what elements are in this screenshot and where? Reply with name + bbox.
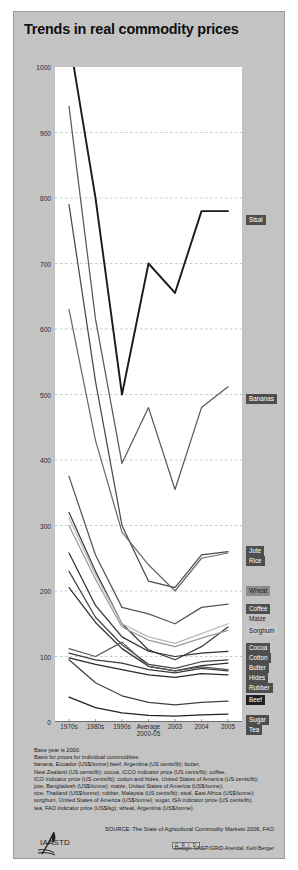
plot-canvas <box>55 67 242 722</box>
plot-area <box>55 67 242 722</box>
series-line-wheat <box>69 476 228 623</box>
note-line: jute, Bangladesh (US$/tonne); maize, Uni… <box>34 783 284 790</box>
note-line: tea, FAO indicator price (US$/kg); wheat… <box>34 805 284 812</box>
series-line-tea <box>69 697 228 716</box>
chart-legend: SisalBananasJuteRiceWheatCoffeeMaizeSorg… <box>246 67 298 727</box>
note-line: New Zealand (US cents/lb); cocoa, ICCO i… <box>34 769 284 776</box>
note-line: sorghum, United States of America (US$/t… <box>34 797 284 804</box>
x-axis-tick: 2005 <box>221 723 235 730</box>
x-axis-tick: 1980s <box>87 723 104 730</box>
legend-item-rice[interactable]: Rice <box>246 556 265 566</box>
page-title: Trends in real commodity prices <box>24 21 274 37</box>
x-axis-labels: 1970s1980s1990sAverage2000-0520032004200… <box>44 723 254 745</box>
y-axis-tick: 600 <box>25 326 51 333</box>
y-axis-tick: 800 <box>25 195 51 202</box>
legend-item-bananas[interactable]: Bananas <box>246 394 277 404</box>
x-axis-tick: Average2000-05 <box>137 723 161 737</box>
note-line: ICO indicator price (US cents/lb); cotto… <box>34 776 284 783</box>
poster-page: Trends in real commodity prices 01002003… <box>0 0 298 870</box>
design-credit: Design: UNEP/GRID-Arendal, Ketil Berger <box>174 845 274 851</box>
series-line-sorghum <box>69 526 228 647</box>
y-axis-labels: 01002003004005006007008009001000 <box>23 67 51 722</box>
chart-svg <box>55 67 242 722</box>
legend-item-tea[interactable]: Tea <box>246 725 262 735</box>
legend-item-butter[interactable]: Butter <box>246 663 269 673</box>
note-line: Base year is 2000. <box>34 747 284 754</box>
series-line-jute <box>69 205 228 588</box>
y-axis-tick: 1000 <box>25 64 51 71</box>
legend-item-sisal[interactable]: Sisal <box>246 215 266 225</box>
legend-item-coffee[interactable]: Coffee <box>246 604 270 614</box>
y-axis-tick: 100 <box>25 653 51 660</box>
series-line-hides <box>69 642 228 671</box>
legend-item-sorghum[interactable]: Sorghum <box>246 626 278 636</box>
legend-item-beef[interactable]: Beef <box>246 695 265 705</box>
legend-item-sugar[interactable]: Sugar <box>246 715 269 725</box>
legend-item-rubber[interactable]: Rubber <box>246 683 273 693</box>
chart-notes: Base year is 2000.Basis for prices for i… <box>34 747 284 812</box>
x-axis-tick: 1990s <box>113 723 130 730</box>
y-axis-tick: 700 <box>25 260 51 267</box>
legend-item-wheat[interactable]: Wheat <box>246 586 270 596</box>
y-axis-tick: 900 <box>25 129 51 136</box>
legend-item-cocoa[interactable]: Cocoa <box>246 643 270 653</box>
legend-item-jute[interactable]: Jute <box>246 546 264 556</box>
x-axis-tick: 1970s <box>60 723 77 730</box>
legend-item-maize[interactable]: Maize <box>246 614 269 624</box>
note-line: rice, Thailand (US$/tonne); rubber, Mala… <box>34 790 284 797</box>
x-axis-tick: 2003 <box>168 723 182 730</box>
y-axis-tick: 300 <box>25 522 51 529</box>
legend-item-cotton[interactable]: Cotton <box>246 653 271 663</box>
note-line: Basis for prices for individual commodit… <box>34 754 284 761</box>
y-axis-tick: 500 <box>25 391 51 398</box>
note-line: banana, Ecuador (US$/tonne);beef, Argent… <box>34 761 284 768</box>
y-axis-tick: 400 <box>25 457 51 464</box>
y-axis-tick: 200 <box>25 588 51 595</box>
chart-card: Trends in real commodity prices 01002003… <box>13 11 285 859</box>
x-axis-tick: 2004 <box>194 723 208 730</box>
iaastd-wordmark: IAASTD <box>40 838 70 847</box>
series-line-bananas <box>69 106 228 489</box>
legend-item-hides[interactable]: Hides <box>246 673 268 683</box>
source-line: SOURCE: The State of Agricultural Commod… <box>105 826 274 832</box>
series-line-sisal <box>69 67 228 395</box>
